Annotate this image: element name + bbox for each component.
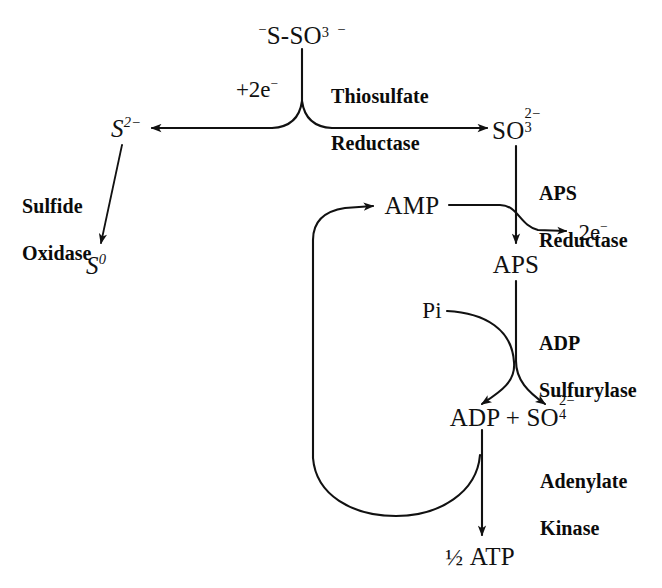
metabolite-amp: AMP [385, 193, 440, 218]
enzyme-line-2: Sulfurylase [539, 379, 637, 402]
metabolite-pi: Pi [422, 299, 442, 322]
enzyme-adenylate-kinase: Adenylate Kinase [540, 447, 628, 564]
enzyme-line-2: Reductase [539, 229, 628, 252]
enzyme-line-2: Reductase [331, 132, 429, 155]
enzyme-line-2: Kinase [540, 517, 628, 540]
metabolite-sulfite: SO2−3 [492, 114, 540, 143]
enzyme-line-2: Oxidase [22, 242, 92, 265]
enzyme-thiosulfate-reductase: Thiosulfate Reductase [331, 62, 429, 179]
label-electrons-in: +2e− [236, 78, 278, 101]
metabolite-thiosulfate: −S-SO3− [258, 19, 345, 48]
metabolite-sulfide: S2− [111, 116, 141, 141]
enzyme-line-1: Thiosulfate [331, 85, 429, 108]
arrow-sulfide-to-sulfur [101, 145, 122, 243]
enzyme-adp-sulfurylase: ADP Sulfurylase [539, 309, 637, 426]
enzyme-line-1: Adenylate [540, 470, 628, 493]
enzyme-line-1: Sulfide [22, 195, 92, 218]
pathway-diagram: −S-SO3− S2− S0 SO2−3 AMP APS Pi 2e− +2e−… [0, 0, 662, 588]
arrow-recycle-loop-to-amp [313, 206, 480, 516]
enzyme-line-1: ADP [539, 332, 637, 355]
metabolite-atp: ½ ATP [445, 544, 515, 570]
enzyme-line-1: APS [539, 182, 628, 205]
enzyme-aps-reductase: APS Reductase [539, 159, 628, 276]
enzyme-sulfide-oxidase: Sulfide Oxidase [22, 172, 92, 289]
metabolite-aps: APS [493, 252, 539, 277]
arrow-thiosulfate-to-sulfide [152, 101, 302, 128]
arrow-pi-to-adp [447, 311, 514, 404]
